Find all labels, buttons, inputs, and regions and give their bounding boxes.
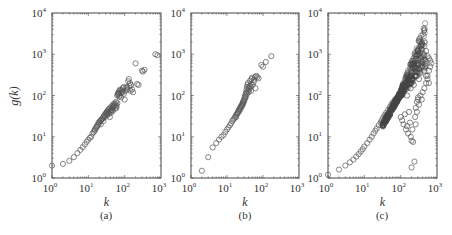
data-point — [409, 165, 414, 170]
x-axis-label: k — [242, 195, 248, 209]
y-axis-label: g(k) — [7, 86, 21, 105]
data-point — [351, 157, 356, 162]
data-point — [336, 167, 341, 172]
x-tick-label: 102 — [115, 181, 130, 194]
scatter-plot-a: 100101102103100101102103104k — [32, 6, 167, 209]
data-point — [199, 168, 204, 173]
x-tick-label: 103 — [428, 181, 443, 194]
x-tick-label: 101 — [355, 181, 370, 194]
data-point — [214, 141, 219, 146]
x-tick-label: 103 — [290, 181, 305, 194]
x-tick-label: 101 — [218, 181, 233, 194]
data-point — [343, 163, 348, 168]
data-point — [407, 120, 412, 125]
x-tick-label: 100 — [319, 181, 334, 194]
y-tick-label: 104 — [171, 6, 186, 19]
panel-caption-c: (c) — [376, 209, 389, 222]
x-axis-label: k — [104, 195, 110, 209]
y-tick-label: 104 — [308, 6, 323, 19]
scatter-plot-b: 100101102103100101102103104k — [171, 6, 305, 209]
data-point — [413, 114, 418, 119]
y-tick-label: 101 — [32, 130, 47, 143]
data-point — [406, 109, 411, 114]
panel-caption-a: (a) — [100, 209, 113, 222]
y-tick-label: 102 — [32, 89, 47, 102]
data-point — [413, 122, 418, 127]
data-point — [210, 145, 215, 150]
data-point — [263, 59, 268, 64]
data-point — [405, 131, 410, 136]
y-tick-label: 102 — [308, 89, 323, 102]
data-points — [49, 52, 160, 169]
figure: 100101102103100101102103104k 10010110210… — [0, 0, 452, 235]
plot-frame — [52, 13, 161, 178]
data-point — [206, 155, 211, 160]
x-tick-label: 101 — [79, 181, 94, 194]
y-tick-label: 103 — [308, 47, 323, 60]
data-point — [411, 139, 416, 144]
x-tick-label: 103 — [152, 181, 167, 194]
data-point — [60, 161, 65, 166]
data-point — [269, 54, 274, 59]
y-tick-label: 101 — [308, 130, 323, 143]
data-point — [75, 151, 80, 156]
y-tick-label: 102 — [171, 89, 186, 102]
data-point — [410, 127, 415, 132]
data-point — [403, 127, 408, 132]
scatter-plot-c: 100101102103100101102103104k — [308, 6, 443, 209]
y-tick-label: 101 — [171, 130, 186, 143]
panel-caption-b: (b) — [239, 209, 252, 222]
data-point — [67, 158, 72, 163]
data-points — [199, 54, 274, 174]
x-tick-label: 102 — [254, 181, 269, 194]
x-tick-label: 102 — [391, 181, 406, 194]
data-points — [325, 21, 434, 178]
x-tick-label: 100 — [182, 181, 197, 194]
y-tick-label: 103 — [32, 47, 47, 60]
data-point — [136, 82, 141, 87]
data-point — [133, 61, 138, 66]
data-point — [347, 160, 352, 165]
plot-frame — [328, 13, 437, 178]
y-tick-label: 103 — [171, 47, 186, 60]
x-axis-label: k — [380, 195, 386, 209]
x-tick-label: 100 — [43, 181, 58, 194]
y-tick-label: 104 — [32, 6, 47, 19]
data-point — [412, 159, 417, 164]
data-point — [253, 86, 258, 91]
